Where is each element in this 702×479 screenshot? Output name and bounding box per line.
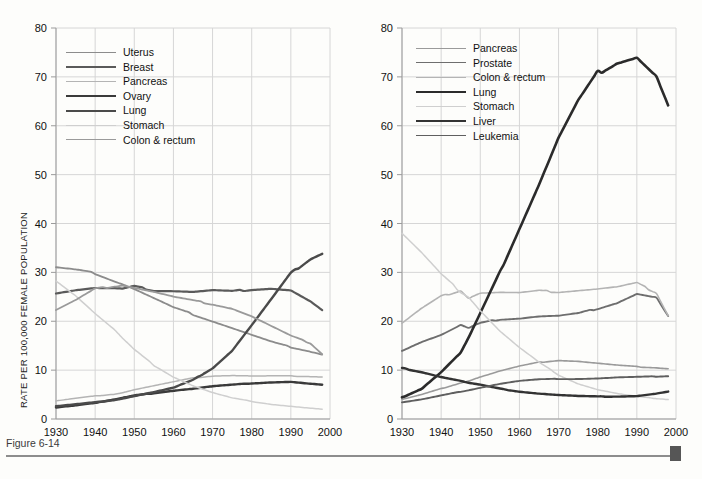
legend-female: UterusBreastPancreasOvaryLungStomachColo… — [66, 45, 195, 147]
legend-item-label: Colon & rectum — [473, 72, 545, 83]
legend-item-label: Pancreas — [123, 76, 167, 87]
x-tick-label: 1970 — [546, 426, 570, 438]
x-tick-label: 1960 — [161, 426, 185, 438]
caption-rule — [6, 455, 678, 457]
legend-swatch-line — [416, 91, 466, 93]
y-tick-label: 30 — [35, 266, 47, 278]
x-tick-label: 1960 — [507, 426, 531, 438]
legend-item: Lung — [416, 85, 545, 100]
legend-swatch-line — [416, 135, 466, 136]
legend-item-label: Pancreas — [473, 43, 517, 54]
legend-item-label: Leukemia — [473, 131, 519, 142]
legend-item: Stomach — [66, 118, 195, 133]
legend-swatch-line — [416, 77, 466, 78]
legend-swatch-line — [66, 139, 116, 140]
legend-swatch-line — [416, 48, 466, 49]
legend-swatch-line — [416, 120, 466, 122]
y-tick-label: 60 — [381, 120, 393, 132]
legend-item: Prostate — [416, 56, 545, 71]
x-tick-label: 1990 — [625, 426, 649, 438]
y-tick-label: 50 — [35, 169, 47, 181]
chart-panel-female: RATE PER 100,000 FEMALE POPULATION 01020… — [0, 0, 356, 445]
legend-swatch-line — [66, 125, 116, 126]
legend-item-label: Colon & rectum — [123, 135, 195, 146]
legend-item-label: Stomach — [123, 120, 164, 131]
series-line-leukemia — [402, 376, 668, 402]
legend-item-label: Prostate — [473, 58, 512, 69]
figure-caption: Figure 6-14 — [6, 437, 60, 449]
legend-item-label: Lung — [473, 87, 496, 98]
legend-swatch-line — [66, 95, 116, 97]
legend-swatch-line — [66, 52, 116, 53]
legend-item: Lung — [66, 103, 195, 118]
y-tick-label: 10 — [35, 364, 47, 376]
legend-swatch-line — [66, 66, 116, 68]
y-tick-label: 40 — [381, 218, 393, 230]
legend-item: Pancreas — [416, 41, 545, 56]
series-line-ovary — [56, 382, 322, 408]
x-tick-label: 1950 — [122, 426, 146, 438]
series-line-breast — [56, 286, 322, 310]
legend-item: Breast — [66, 60, 195, 75]
legend-item-label: Ovary — [123, 91, 151, 102]
y-tick-label: 0 — [41, 413, 47, 425]
x-tick-label: 1950 — [468, 426, 492, 438]
x-tick-label: 1940 — [83, 426, 107, 438]
y-tick-label: 80 — [35, 22, 47, 34]
x-tick-label: 1990 — [279, 426, 303, 438]
y-tick-label: 20 — [381, 315, 393, 327]
corner-marker — [670, 446, 681, 461]
legend-swatch-line — [66, 110, 116, 112]
y-tick-label: 50 — [381, 169, 393, 181]
x-tick-label: 2000 — [664, 426, 688, 438]
x-tick-label: 1980 — [585, 426, 609, 438]
legend-male: PancreasProstateColon & rectumLungStomac… — [416, 41, 545, 143]
y-tick-label: 60 — [35, 120, 47, 132]
figure-root: RATE PER 100,000 FEMALE POPULATION 01020… — [0, 0, 702, 479]
y-tick-label: 30 — [381, 266, 393, 278]
y-tick-label: 70 — [35, 71, 47, 83]
x-tick-label: 1980 — [239, 426, 263, 438]
series-line-prostate — [402, 294, 668, 351]
legend-item-label: Uterus — [123, 47, 154, 58]
legend-item-label: Stomach — [473, 101, 514, 112]
x-tick-label: 1930 — [390, 426, 414, 438]
y-tick-label: 80 — [381, 22, 393, 34]
series-line-uterus — [56, 267, 322, 354]
legend-swatch-line — [66, 81, 116, 82]
x-tick-label: 2000 — [318, 426, 342, 438]
y-tick-label: 10 — [381, 364, 393, 376]
legend-swatch-line — [416, 62, 466, 63]
x-tick-label: 1940 — [429, 426, 453, 438]
legend-item-label: Liver — [473, 116, 496, 127]
legend-swatch-line — [416, 106, 466, 107]
legend-item-label: Breast — [123, 62, 153, 73]
legend-item-label: Lung — [123, 105, 146, 116]
legend-item: Stomach — [416, 99, 545, 114]
legend-item: Leukemia — [416, 129, 545, 144]
y-tick-label: 40 — [35, 218, 47, 230]
y-tick-label: 0 — [387, 413, 393, 425]
y-tick-label: 20 — [35, 315, 47, 327]
legend-item: Colon & rectum — [66, 133, 195, 148]
chart-panel-male: RATE PER 100,000 MALE POPULATION 0102030… — [346, 0, 702, 445]
x-tick-label: 1970 — [200, 426, 224, 438]
legend-item: Uterus — [66, 45, 195, 60]
legend-item: Pancreas — [66, 74, 195, 89]
legend-item: Ovary — [66, 89, 195, 104]
legend-item: Colon & rectum — [416, 70, 545, 85]
y-tick-label: 70 — [381, 71, 393, 83]
legend-item: Liver — [416, 114, 545, 129]
